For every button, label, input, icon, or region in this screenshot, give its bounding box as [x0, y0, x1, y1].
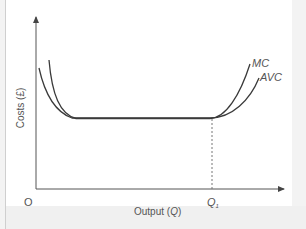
- x-axis-label-var: Q: [170, 206, 178, 217]
- x-axis-label-close: ): [178, 206, 181, 217]
- x-axis-label: Output (Q): [134, 206, 181, 217]
- mc-curve: [49, 60, 250, 119]
- q1-tick-sub: 1: [216, 203, 219, 209]
- mc-label: MC: [252, 57, 269, 69]
- x-axis-label-text: Output (: [134, 206, 170, 217]
- y-axis-label: Costs (£): [15, 88, 26, 129]
- avc-label: AVC: [260, 71, 282, 83]
- q1-tick-main: Q: [207, 196, 216, 208]
- q1-tick-label: Q1: [207, 196, 219, 209]
- origin-label: O: [24, 196, 33, 208]
- cost-curves-chart: [0, 0, 306, 229]
